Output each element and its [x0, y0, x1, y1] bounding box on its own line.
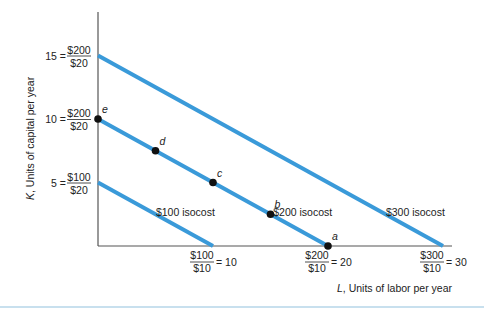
- x-tick-suffix: = 10: [216, 256, 237, 268]
- y-tick-label: 15 =$200$20: [45, 44, 91, 69]
- y-tick-denominator: $20: [70, 120, 88, 132]
- y-tick-prefix: 15 =: [45, 50, 66, 62]
- x-tick-suffix: = 20: [331, 256, 352, 268]
- isocost-label: $300 isocost: [386, 206, 445, 218]
- y-tick-numerator: $100: [67, 171, 91, 183]
- y-tick-denominator: $20: [70, 184, 88, 196]
- y-axis-label-text: , Units of capital per year: [24, 76, 36, 193]
- y-tick-label: 10 =$200$20: [45, 107, 91, 132]
- point-b: [267, 210, 275, 218]
- point-label-a: a: [332, 230, 338, 242]
- x-tick-label: $100$10= 10: [190, 249, 237, 274]
- x-axis-label-text: , Units of labor per year: [343, 282, 453, 294]
- point-c: [209, 179, 217, 187]
- y-axis-label: K, Units of capital per year: [24, 76, 36, 200]
- y-tick-label: 5 =$100$20: [51, 171, 91, 196]
- y-tick-prefix: 10 =: [45, 113, 66, 125]
- y-tick-denominator: $20: [70, 57, 88, 69]
- x-tick-numerator: $100: [190, 249, 214, 261]
- point-label-e: e: [102, 103, 108, 115]
- x-tick-suffix: = 30: [446, 256, 467, 268]
- bottom-divider: [0, 306, 484, 308]
- isocost-chart: $100 isocost$200 isocost$300 isocost edc…: [0, 0, 484, 314]
- x-tick-denominator: $10: [193, 262, 211, 274]
- y-tick-prefix: 5 =: [51, 177, 66, 189]
- x-axis-label: L, Units of labor per year: [337, 282, 452, 294]
- point-e: [94, 115, 102, 123]
- point-d: [152, 147, 160, 155]
- point-label-d: d: [160, 135, 167, 147]
- x-tick-denominator: $10: [423, 262, 441, 274]
- y-tick-numerator: $200: [67, 44, 91, 56]
- x-tick-label: $300$10= 30: [420, 249, 467, 274]
- isocost-label: $200 isocost: [273, 206, 332, 218]
- x-tick-numerator: $200: [305, 249, 329, 261]
- y-tick-numerator: $200: [67, 107, 91, 119]
- x-tick-denominator: $10: [308, 262, 326, 274]
- point-label-c: c: [217, 167, 223, 179]
- x-tick-numerator: $300: [420, 249, 444, 261]
- point-label-b: b: [275, 198, 281, 210]
- x-tick-label: $200$10= 20: [305, 249, 352, 274]
- isocost-label: $100 isocost: [156, 206, 215, 218]
